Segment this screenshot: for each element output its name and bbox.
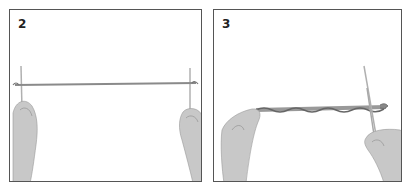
step-2-panel: 2 [9, 9, 202, 182]
step-3-panel: 3 [213, 9, 402, 182]
right-hand-icon [179, 109, 202, 182]
step-2-illustration [10, 10, 202, 182]
yarn-strand-icon [15, 83, 196, 85]
left-hand-icon [13, 101, 37, 182]
step-3-illustration [214, 10, 402, 182]
right-hand-icon [365, 129, 402, 182]
needle-icon [364, 66, 376, 135]
left-hand-icon [221, 109, 260, 182]
